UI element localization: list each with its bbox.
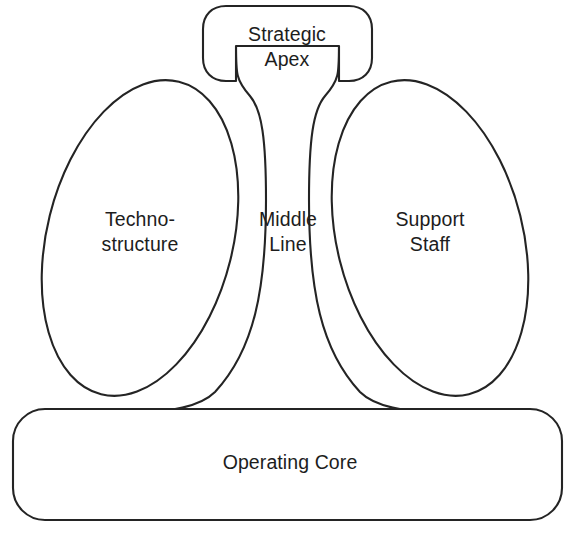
support-staff-label: Support Staff (355, 207, 505, 257)
operating-core-label: Operating Core (12, 450, 568, 475)
strategic-apex-label: Strategic Apex (202, 22, 372, 72)
organizational-structure-diagram: Strategic Apex Techno- structure Middle … (0, 0, 575, 534)
technostructure-label: Techno- structure (55, 207, 225, 257)
middle-line-label: Middle Line (243, 207, 333, 257)
